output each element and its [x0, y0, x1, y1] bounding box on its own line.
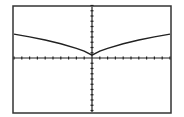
calculator-graph-screen	[0, 0, 184, 117]
